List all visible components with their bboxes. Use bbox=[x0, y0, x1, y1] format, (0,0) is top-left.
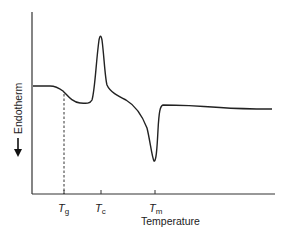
y-axis-label: Endotherm bbox=[12, 82, 24, 134]
tick-label-tc: Tc bbox=[95, 202, 106, 216]
y-axis-label-group: Endotherm bbox=[12, 82, 24, 134]
dsc-curve bbox=[33, 36, 272, 161]
tick-label-tg: Tg bbox=[58, 202, 69, 216]
dsc-thermogram-chart: Tg Tc Tm Temperature Endotherm bbox=[0, 0, 288, 237]
tick-label-tm: Tm bbox=[149, 202, 163, 216]
down-arrow-icon bbox=[14, 138, 22, 157]
x-axis-label: Temperature bbox=[141, 215, 200, 227]
chart-svg: Tg Tc Tm Temperature Endotherm bbox=[0, 0, 288, 237]
